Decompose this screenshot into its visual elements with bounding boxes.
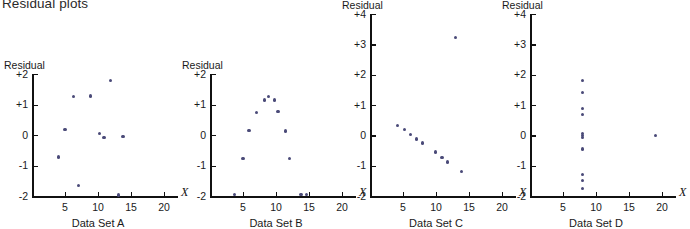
x-tick-mark xyxy=(164,192,165,196)
y-tick-label: +4 xyxy=(504,9,526,20)
data-point xyxy=(267,95,270,98)
data-point xyxy=(581,179,584,182)
y-tick-mark xyxy=(212,196,216,197)
y-tick-label: +2 xyxy=(6,69,28,80)
y-tick-label: -1 xyxy=(344,160,366,171)
data-point xyxy=(581,91,584,94)
x-tick-mark xyxy=(309,192,310,196)
y-tick-label: +2 xyxy=(184,69,206,80)
data-point xyxy=(581,113,584,116)
plot-caption: Data Set B xyxy=(200,217,352,229)
y-tick-label: +1 xyxy=(6,99,28,110)
y-tick-label: +2 xyxy=(344,69,366,80)
data-point xyxy=(581,187,584,190)
scatter-plot-panel: Residual-2-10+1+2+3+45101520XData Set D xyxy=(498,0,690,227)
x-axis-line xyxy=(210,196,356,198)
x-tick-label: 10 xyxy=(86,202,110,213)
y-tick-mark xyxy=(212,166,216,167)
y-tick-label: +1 xyxy=(504,100,526,111)
y-tick-mark xyxy=(212,135,216,136)
y-tick-label: -1 xyxy=(6,160,28,171)
x-tick-label: 5 xyxy=(53,202,77,213)
y-tick-mark xyxy=(34,105,38,106)
data-point xyxy=(299,193,302,196)
y-tick-mark xyxy=(532,14,536,15)
y-tick-label: -2 xyxy=(6,191,28,202)
x-tick-mark xyxy=(403,192,404,196)
data-point xyxy=(255,111,258,114)
x-tick-mark xyxy=(243,192,244,196)
x-tick-label: 10 xyxy=(424,202,448,213)
plot-caption: Data Set D xyxy=(520,217,672,229)
y-tick-mark xyxy=(34,166,38,167)
y-tick-label: 0 xyxy=(6,130,28,141)
y-tick-mark xyxy=(372,44,376,45)
data-point xyxy=(434,150,437,153)
x-tick-mark xyxy=(131,192,132,196)
plot-caption: Data Set A xyxy=(22,217,174,229)
y-tick-mark xyxy=(372,135,376,136)
y-tick-mark xyxy=(532,105,536,106)
x-tick-label: 10 xyxy=(584,202,608,213)
data-point xyxy=(98,132,101,135)
data-point xyxy=(276,110,279,113)
y-tick-mark xyxy=(34,74,38,75)
x-axis-line xyxy=(32,196,178,198)
y-tick-label: +1 xyxy=(184,99,206,110)
y-tick-mark xyxy=(532,135,536,136)
x-tick-mark xyxy=(469,192,470,196)
x-tick-label: 5 xyxy=(391,202,415,213)
y-tick-label: +2 xyxy=(504,69,526,80)
x-tick-label: 10 xyxy=(264,202,288,213)
data-point xyxy=(446,160,449,163)
y-tick-label: -2 xyxy=(344,191,366,202)
x-tick-label: 15 xyxy=(119,202,143,213)
y-tick-label: -1 xyxy=(504,160,526,171)
data-point xyxy=(581,173,584,176)
y-tick-label: 0 xyxy=(184,130,206,141)
x-tick-label: 5 xyxy=(551,202,575,213)
y-tick-mark xyxy=(532,75,536,76)
data-point xyxy=(102,136,105,139)
data-point xyxy=(72,95,75,98)
data-point xyxy=(263,98,266,101)
data-point xyxy=(284,129,287,132)
x-tick-mark xyxy=(629,192,630,196)
data-point xyxy=(109,79,112,82)
x-tick-mark xyxy=(276,192,277,196)
data-point xyxy=(581,107,584,110)
y-tick-mark xyxy=(212,74,216,75)
data-point xyxy=(581,79,584,82)
scatter-plot-panel: Residual-2-10+1+25101520XData Set A xyxy=(0,0,192,227)
y-tick-label: +3 xyxy=(344,39,366,50)
y-tick-label: -1 xyxy=(184,160,206,171)
data-point xyxy=(247,129,250,132)
data-point xyxy=(454,36,457,39)
data-point xyxy=(241,157,244,160)
x-tick-label: 15 xyxy=(617,202,641,213)
x-tick-mark xyxy=(563,192,564,196)
data-point xyxy=(460,170,463,173)
data-point xyxy=(654,134,657,137)
data-point xyxy=(396,124,399,127)
data-point xyxy=(57,155,60,158)
x-tick-label: 15 xyxy=(457,202,481,213)
y-tick-mark xyxy=(532,166,536,167)
x-tick-mark xyxy=(662,192,663,196)
plot-caption: Data Set C xyxy=(360,217,512,229)
data-point xyxy=(233,193,236,196)
data-point xyxy=(421,141,424,144)
data-point xyxy=(273,98,276,101)
x-tick-mark xyxy=(596,192,597,196)
y-tick-mark xyxy=(372,105,376,106)
y-tick-mark xyxy=(34,196,38,197)
y-tick-mark xyxy=(212,105,216,106)
y-tick-label: +4 xyxy=(344,9,366,20)
data-point xyxy=(409,133,412,136)
y-tick-mark xyxy=(372,75,376,76)
y-tick-label: 0 xyxy=(344,130,366,141)
data-point xyxy=(89,94,92,97)
data-point xyxy=(403,128,406,131)
x-tick-mark xyxy=(436,192,437,196)
y-tick-label: +1 xyxy=(344,100,366,111)
